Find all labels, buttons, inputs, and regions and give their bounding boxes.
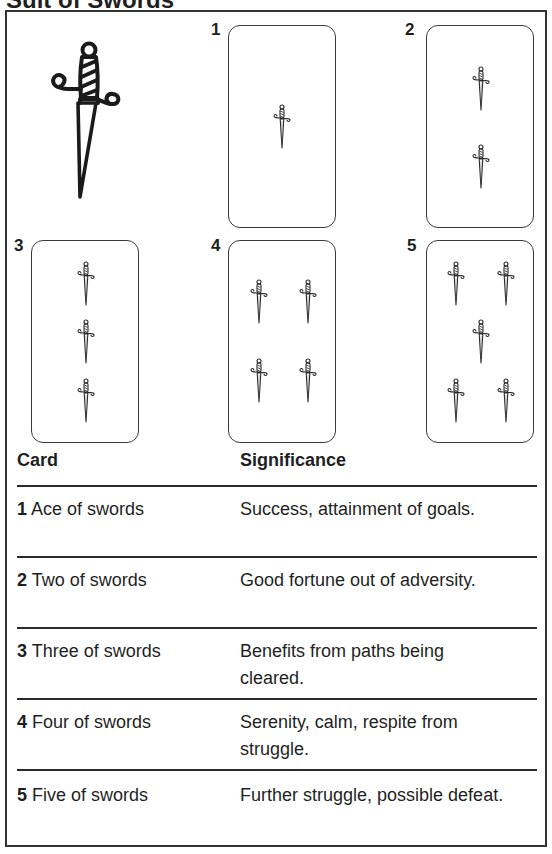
table-divider — [17, 627, 537, 629]
card-number-1: 1 — [211, 20, 220, 40]
sword-icon — [40, 35, 130, 205]
card-three-of-swords — [31, 240, 139, 443]
card-ace-of-swords — [228, 25, 336, 228]
card-five-of-swords — [426, 240, 534, 443]
table-divider — [17, 485, 537, 487]
card-number-3: 3 — [14, 236, 23, 256]
small-sword-icon — [75, 378, 97, 424]
small-sword-icon — [470, 144, 492, 190]
card-two-of-swords — [426, 25, 534, 228]
significance-cell: Good fortune out of adversity. — [240, 567, 540, 594]
small-sword-icon — [297, 358, 319, 404]
card-number-4: 4 — [211, 236, 220, 256]
table-divider — [17, 698, 537, 700]
small-sword-icon — [470, 319, 492, 365]
small-sword-icon — [297, 279, 319, 325]
small-sword-icon — [445, 261, 467, 307]
card-name-cell: 5 Five of swords — [17, 782, 148, 809]
small-sword-icon — [445, 378, 467, 424]
card-name-cell: 3 Three of swords — [17, 638, 161, 665]
small-sword-icon — [470, 66, 492, 112]
small-sword-icon — [75, 319, 97, 365]
table-divider — [17, 769, 537, 771]
table-header-significance: Significance — [240, 450, 346, 471]
significance-cell: Success, attainment of goals. — [240, 496, 540, 523]
small-sword-icon — [248, 279, 270, 325]
significance-cell: Serenity, calm, respite from struggle. — [240, 709, 510, 763]
significance-cell: Benefits from paths being cleared. — [240, 638, 510, 692]
small-sword-icon — [75, 261, 97, 307]
table-divider — [17, 556, 537, 558]
card-number-2: 2 — [405, 20, 414, 40]
table-header-card: Card — [17, 450, 58, 471]
card-name-cell: 2 Two of swords — [17, 567, 147, 594]
card-name-cell: 1 Ace of swords — [17, 496, 144, 523]
small-sword-icon — [248, 358, 270, 404]
significance-cell: Further struggle, possible defeat. — [240, 782, 510, 809]
small-sword-icon — [495, 378, 517, 424]
small-sword-icon — [271, 104, 293, 150]
card-name-cell: 4 Four of swords — [17, 709, 151, 736]
card-number-5: 5 — [407, 236, 416, 256]
card-four-of-swords — [228, 240, 336, 443]
small-sword-icon — [495, 261, 517, 307]
